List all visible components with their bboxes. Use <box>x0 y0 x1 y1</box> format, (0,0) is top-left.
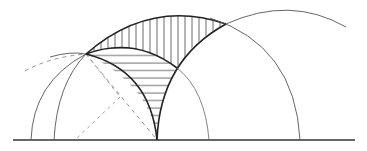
thin-arc-top-left <box>50 53 86 57</box>
dashed-line-diagonal-2 <box>75 97 120 140</box>
thin-arc-right-large <box>210 18 300 140</box>
dashed-arc-left <box>25 54 86 71</box>
thin-arc-left-outer <box>31 54 86 140</box>
thin-arc-left-inner <box>54 54 86 140</box>
geometric-diagram <box>0 0 367 151</box>
thin-arc-top-right <box>226 10 346 27</box>
lower-lune-hatch <box>86 48 177 140</box>
thin-arc-right-inner <box>177 68 209 140</box>
